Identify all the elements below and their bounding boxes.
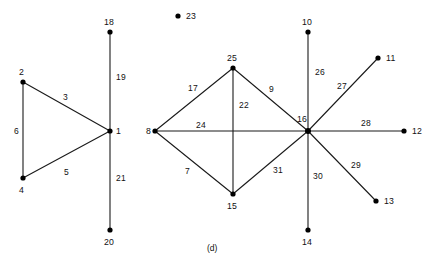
node-label-8: 8	[146, 127, 151, 136]
node-label-4: 4	[19, 186, 24, 195]
node-label-1: 1	[116, 127, 121, 136]
edge-label-29: 29	[351, 161, 361, 170]
graph-canvas	[0, 0, 431, 269]
node-label-2: 2	[19, 68, 24, 77]
edge-label-30: 30	[313, 172, 323, 181]
node-2	[20, 79, 25, 84]
node-label-13: 13	[384, 197, 394, 206]
edge-label-3: 3	[63, 93, 68, 102]
node-label-16: 16	[297, 115, 307, 124]
edge-label-19: 19	[116, 73, 126, 82]
edge-label-28: 28	[361, 119, 371, 128]
node-8	[152, 128, 157, 133]
edge-label-6: 6	[14, 127, 19, 136]
edge-8-15	[155, 131, 233, 194]
edge-label-5: 5	[64, 168, 69, 177]
node-label-18: 18	[104, 18, 114, 27]
node-14	[305, 227, 310, 232]
node-label-12: 12	[412, 127, 422, 136]
edge-label-31: 31	[273, 166, 283, 175]
node-label-20: 20	[104, 238, 114, 247]
nodes-group	[20, 13, 406, 232]
edge-label-27: 27	[337, 82, 347, 91]
node-25	[230, 65, 235, 70]
edge-label-24: 24	[196, 121, 206, 130]
node-label-14: 14	[302, 238, 312, 247]
edge-2-1	[23, 82, 110, 131]
node-12	[401, 128, 406, 133]
edge-label-9: 9	[269, 85, 274, 94]
edge-label-17: 17	[188, 84, 198, 93]
edge-label-21: 21	[116, 174, 126, 183]
node-15	[230, 191, 235, 196]
node-18	[107, 29, 112, 34]
edge-16-13	[308, 131, 376, 201]
edge-8-25	[155, 68, 233, 131]
node-23	[175, 13, 180, 18]
edge-label-7: 7	[185, 167, 190, 176]
edge-15-16	[233, 131, 308, 194]
node-11	[375, 55, 380, 60]
edge-label-22: 22	[239, 101, 249, 110]
node-label-11: 11	[386, 54, 395, 63]
figure-caption: (d)	[207, 243, 217, 253]
node-10	[305, 29, 310, 34]
node-13	[373, 198, 378, 203]
node-16	[305, 128, 311, 134]
edges-group	[23, 32, 404, 230]
edge-label-26: 26	[315, 68, 325, 77]
node-label-23: 23	[186, 12, 196, 21]
node-20	[107, 227, 112, 232]
figure-panel-d: 365192117247229312627282930 241182023825…	[0, 0, 431, 269]
node-label-15: 15	[227, 202, 237, 211]
node-label-10: 10	[302, 18, 312, 27]
node-1	[107, 128, 112, 133]
node-4	[20, 175, 25, 180]
node-label-25: 25	[227, 54, 237, 63]
